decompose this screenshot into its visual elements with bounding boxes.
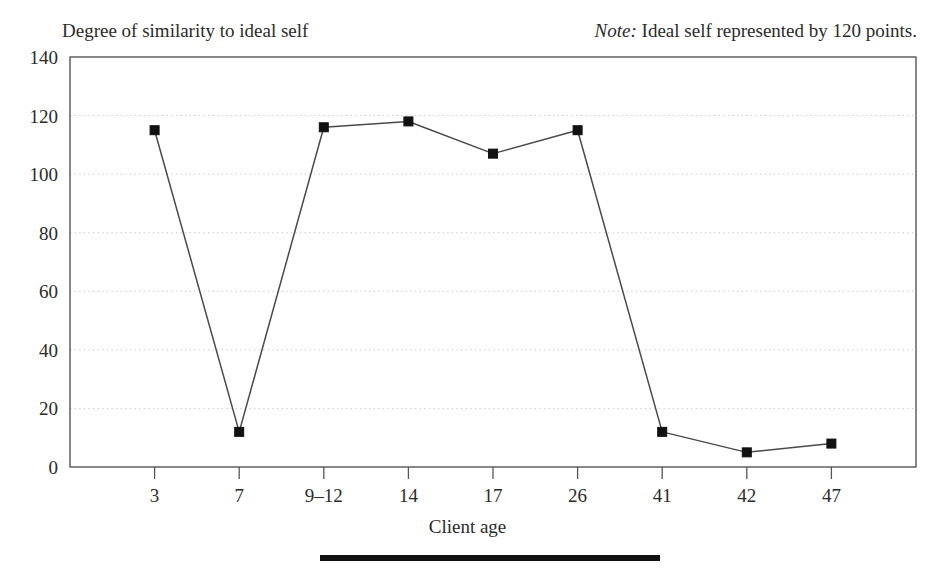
x-axis-title: Client age <box>0 516 935 538</box>
x-axis-ticks <box>155 467 832 479</box>
data-point-marker <box>404 117 413 126</box>
y-axis-tick-labels: 020406080100120140 <box>30 47 59 478</box>
line-chart-plot: 020406080100120140379–12141726414247 <box>0 0 935 571</box>
x-tick-label: 41 <box>653 485 672 506</box>
y-tick-label: 0 <box>49 457 59 478</box>
y-tick-label: 40 <box>39 340 58 361</box>
data-point-marker <box>150 126 159 135</box>
x-axis-tick-labels: 379–12141726414247 <box>150 485 841 506</box>
y-tick-label: 20 <box>39 398 58 419</box>
x-tick-label: 47 <box>822 485 841 506</box>
data-markers <box>150 117 836 457</box>
data-point-marker <box>827 439 836 448</box>
x-tick-label: 26 <box>568 485 587 506</box>
x-tick-label: 7 <box>234 485 244 506</box>
bottom-rule-bar <box>320 555 660 561</box>
y-tick-label: 60 <box>39 281 58 302</box>
y-tick-label: 80 <box>39 223 58 244</box>
data-line <box>155 121 832 452</box>
axis-frame <box>70 57 916 467</box>
data-point-marker <box>658 427 667 436</box>
x-tick-label: 9–12 <box>305 485 343 506</box>
y-tick-label: 140 <box>30 47 59 68</box>
data-point-marker <box>489 149 498 158</box>
data-point-marker <box>319 123 328 132</box>
data-point-marker <box>235 427 244 436</box>
y-tick-label: 120 <box>30 106 59 127</box>
x-tick-label: 14 <box>399 485 419 506</box>
x-tick-label: 17 <box>484 485 503 506</box>
y-tick-label: 100 <box>30 164 59 185</box>
data-point-marker <box>742 448 751 457</box>
x-tick-label: 3 <box>150 485 160 506</box>
chart-figure: Degree of similarity to ideal self Note:… <box>0 0 935 571</box>
data-point-marker <box>573 126 582 135</box>
gridlines <box>70 116 916 409</box>
x-tick-label: 42 <box>737 485 756 506</box>
plot-frame <box>70 57 916 467</box>
